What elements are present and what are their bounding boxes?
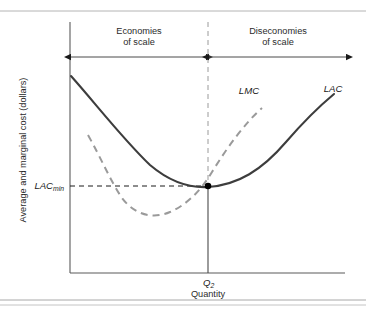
lac-min-tick-main: LAC: [34, 180, 53, 191]
lac-min-tick-sub: min: [53, 185, 64, 192]
lac-curve-label: LAC: [324, 83, 343, 94]
economies-label-line2: of scale: [123, 37, 155, 47]
economies-of-scale-figure: Economies of scale Diseconomies of scale…: [0, 0, 366, 318]
lmc-curve-label: LMC: [239, 85, 259, 96]
figure-background: [0, 0, 366, 318]
diseconomies-label-line1: Diseconomies: [249, 26, 307, 36]
diseconomies-label-line2: of scale: [262, 37, 294, 47]
economies-label-line1: Economies: [116, 26, 162, 36]
minimum-efficient-scale-point: [205, 183, 212, 190]
x-axis-title: Quantity: [191, 289, 226, 299]
y-axis-title: Average and marginal cost (dollars): [18, 78, 28, 223]
